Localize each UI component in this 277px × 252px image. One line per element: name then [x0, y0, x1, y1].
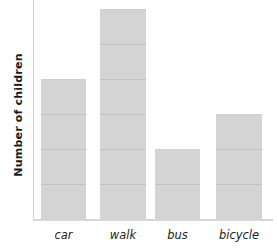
bar-unit-block — [41, 184, 86, 219]
y-axis-label: Number of children — [12, 53, 25, 176]
bar-unit-block — [100, 149, 146, 184]
bar-unit-block — [100, 44, 146, 79]
bar-bicycle — [216, 114, 262, 219]
bar-bus — [155, 149, 200, 219]
category-label-bus: bus — [148, 228, 208, 242]
category-label-walk: walk — [93, 228, 153, 242]
bar-unit-block — [41, 114, 86, 149]
y-axis-line — [33, 0, 34, 220]
bar-unit-block — [216, 149, 262, 184]
bar-unit-block — [100, 114, 146, 149]
bar-walk — [100, 9, 146, 219]
bar-unit-block — [155, 184, 200, 219]
bar-unit-block — [100, 79, 146, 114]
bar-car — [41, 79, 86, 219]
bar-unit-block — [216, 114, 262, 149]
bar-chart: Number of children carwalkbusbicycle — [0, 0, 277, 252]
bar-unit-block — [41, 149, 86, 184]
bar-unit-block — [155, 149, 200, 184]
category-label-bicycle: bicycle — [209, 228, 269, 242]
bar-unit-block — [100, 9, 146, 44]
category-label-car: car — [34, 228, 94, 242]
x-axis-line — [33, 219, 273, 221]
bar-unit-block — [100, 184, 146, 219]
bar-unit-block — [41, 79, 86, 114]
bar-unit-block — [216, 184, 262, 219]
